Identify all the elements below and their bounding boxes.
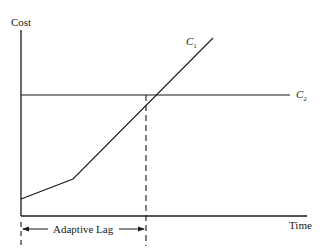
c1-line bbox=[21, 38, 213, 199]
c2-label: C2 bbox=[296, 89, 307, 103]
arrowhead-right-icon bbox=[138, 227, 145, 232]
arrowhead-left-icon bbox=[22, 227, 29, 232]
c2-label-sub: 2 bbox=[303, 95, 307, 103]
adaptive-lag-label: Adaptive Lag bbox=[53, 224, 113, 235]
c1-label-sub: 1 bbox=[193, 42, 197, 50]
c1-label: C1 bbox=[186, 36, 197, 50]
x-axis-label: Time bbox=[289, 220, 312, 231]
chart-canvas bbox=[0, 0, 324, 251]
y-axis-label: Cost bbox=[11, 17, 31, 28]
